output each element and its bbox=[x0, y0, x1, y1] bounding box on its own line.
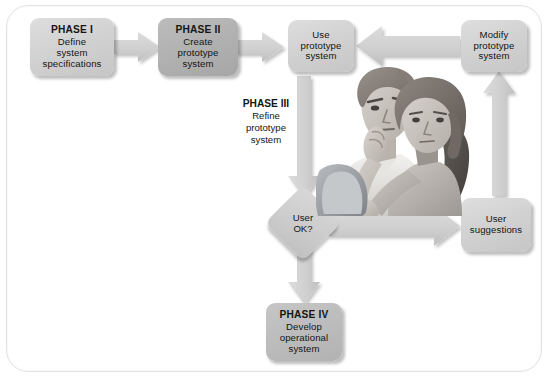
caption-phase-3: PHASE III Refine prototype system bbox=[218, 98, 314, 146]
node-phase-4[interactable]: PHASE IV Develop operational system bbox=[266, 303, 342, 361]
node-phase-2-line-3: system bbox=[183, 59, 214, 70]
arrow-modify-to-use bbox=[356, 26, 460, 66]
node-modify-prototype-system[interactable]: Modify prototype system bbox=[461, 20, 527, 72]
decision-line-1: User bbox=[293, 212, 313, 223]
node-modify-line-1: Modify bbox=[480, 30, 509, 41]
caption-phase-3-line-3: system bbox=[218, 134, 314, 146]
node-phase-2-title: PHASE II bbox=[175, 24, 220, 36]
woman-mouth bbox=[420, 141, 434, 142]
caption-phase-3-line-2: prototype bbox=[218, 122, 314, 134]
node-use-line-3: system bbox=[306, 51, 337, 62]
node-phase-2[interactable]: PHASE II Create prototype system bbox=[158, 18, 238, 76]
node-phase-1[interactable]: PHASE I Define system specifications bbox=[30, 18, 114, 76]
arrow-phase1-to-phase2 bbox=[113, 32, 160, 62]
illustration-two-users-at-monitor bbox=[316, 66, 488, 216]
man-eye-left bbox=[371, 105, 379, 110]
arrow-phase2-to-use bbox=[236, 32, 284, 62]
node-use-line-1: Use bbox=[312, 30, 329, 41]
node-suggestions-line-2: suggestions bbox=[470, 225, 522, 236]
node-phase-1-line-3: specifications bbox=[43, 59, 102, 70]
node-use-prototype-system[interactable]: Use prototype system bbox=[288, 20, 354, 72]
node-phase-4-line-3: system bbox=[289, 344, 320, 355]
caption-phase-3-line-1: Refine bbox=[218, 110, 314, 122]
node-phase-1-title: PHASE I bbox=[51, 24, 93, 36]
woman-eye-right bbox=[436, 118, 444, 123]
decision-line-2: OK? bbox=[293, 223, 312, 234]
woman-eye-left bbox=[412, 118, 420, 123]
node-modify-line-3: system bbox=[479, 51, 510, 62]
caption-phase-3-title: PHASE III bbox=[218, 98, 314, 110]
diagram-canvas: PHASE I Define system specifications PHA… bbox=[0, 0, 551, 380]
node-phase-4-title: PHASE IV bbox=[279, 309, 328, 321]
